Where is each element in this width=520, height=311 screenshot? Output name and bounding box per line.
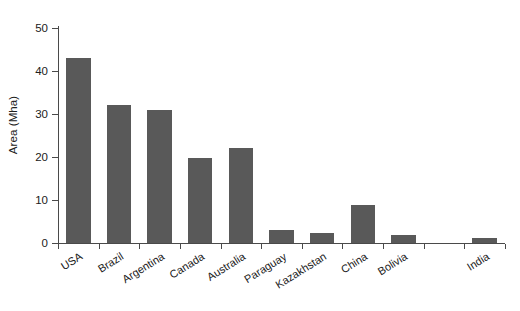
y-axis-tick-label: 30 [10, 108, 48, 120]
y-axis-tick-label: 50 [10, 22, 48, 34]
x-axis-tick [221, 244, 222, 249]
x-axis-category-label: India [400, 250, 491, 311]
bar [107, 105, 131, 243]
x-axis-tick [424, 244, 425, 249]
bar [472, 238, 496, 243]
bar [229, 148, 253, 243]
y-axis-title: Area (Mha) [0, 0, 26, 250]
y-axis-tick-label: 20 [10, 151, 48, 163]
x-axis-tick [342, 244, 343, 249]
y-axis-tick-label: 0 [10, 237, 48, 249]
bar-chart: Area (Mha) 01020304050 USABrazilArgentin… [0, 0, 520, 311]
bar [391, 235, 415, 243]
x-axis-tick [464, 244, 465, 249]
bars-layer [58, 20, 505, 243]
x-axis-tick [58, 244, 59, 249]
x-axis-tick [99, 244, 100, 249]
bar [351, 205, 375, 243]
y-axis-tick-label: 10 [10, 194, 48, 206]
bar [310, 233, 334, 243]
bar [188, 158, 212, 243]
x-axis-tick [180, 244, 181, 249]
x-axis-tick [302, 244, 303, 249]
x-axis-tick [139, 244, 140, 249]
x-axis-tick [261, 244, 262, 249]
bar [66, 58, 90, 243]
x-axis-tick [505, 244, 506, 249]
x-axis-tick [383, 244, 384, 249]
bar [147, 110, 171, 243]
bar [269, 230, 293, 243]
x-axis-line [58, 243, 505, 244]
y-axis-tick-label: 40 [10, 65, 48, 77]
y-axis-title-label: Area (Mha) [7, 96, 19, 155]
